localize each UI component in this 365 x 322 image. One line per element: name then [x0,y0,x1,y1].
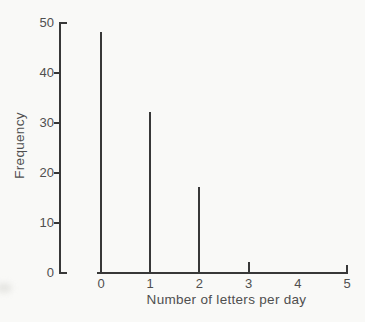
x-axis-end-tick [346,265,348,272]
y-tick [54,72,60,74]
data-spike [149,112,151,272]
y-tick-label: 50 [20,16,54,30]
x-tick-label: 3 [234,277,264,291]
y-axis-top-serif [60,22,67,24]
y-tick-label: 40 [20,66,54,80]
x-tick-label: 5 [332,277,362,291]
data-spike [198,187,200,272]
y-axis-bottom-serif [60,272,67,274]
y-tick [54,122,60,124]
y-axis-line [59,22,61,274]
y-axis-title: Frequency [12,101,27,191]
data-spike [100,32,102,272]
x-tick-label: 1 [135,277,165,291]
x-axis-title: Number of letters per day [0,292,365,307]
frequency-spike-chart: 01020304050 012345 Frequency Number of l… [0,0,365,322]
x-tick-label: 0 [86,277,116,291]
data-spike [248,262,250,272]
y-tick [54,172,60,174]
x-tick-label: 2 [184,277,214,291]
x-tick-label: 4 [283,277,313,291]
x-axis-line [97,272,348,274]
y-tick-label: 0 [20,266,54,280]
y-tick [54,222,60,224]
y-tick-label: 10 [20,216,54,230]
